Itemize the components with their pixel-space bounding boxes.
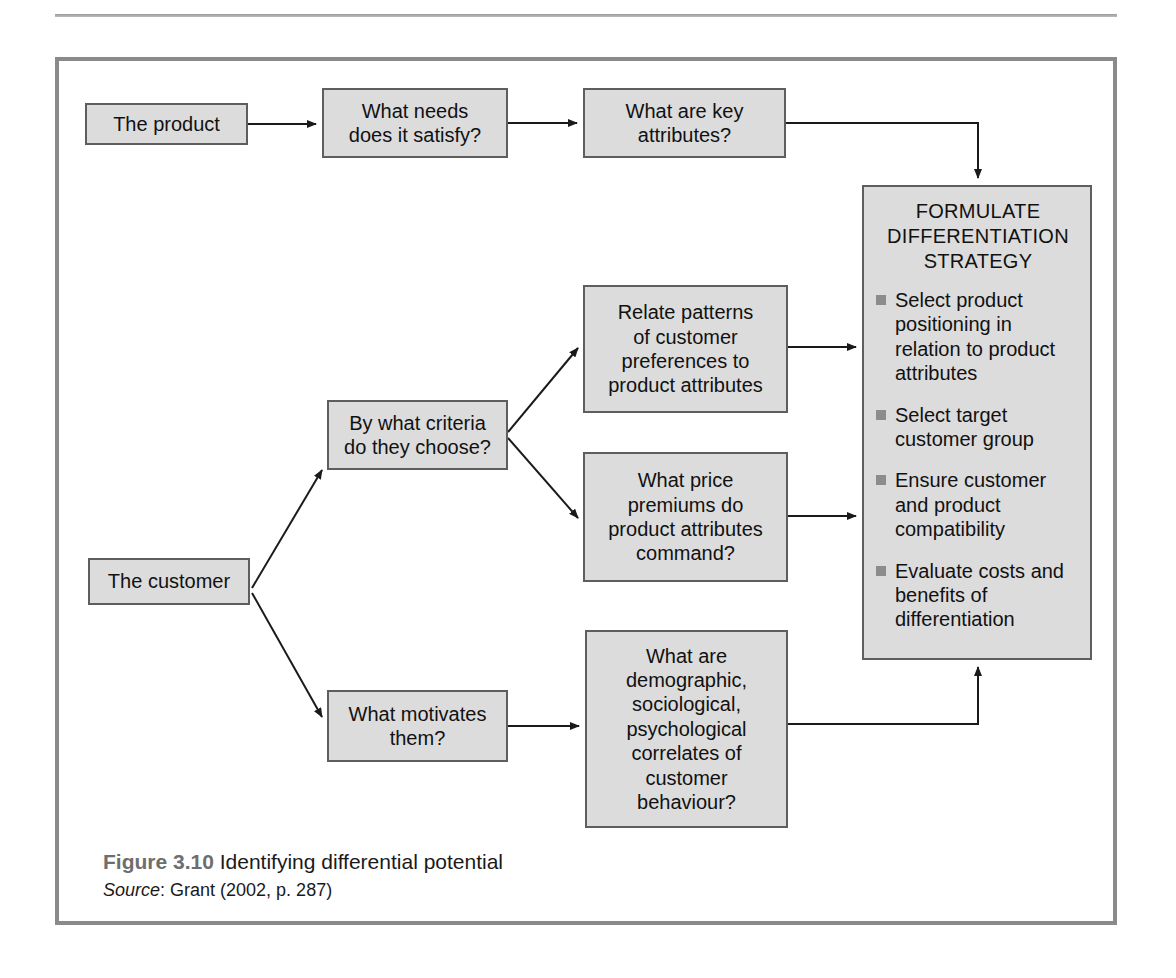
source-text: : Grant (2002, p. 287) bbox=[160, 880, 332, 900]
list-item: Evaluate costs and benefits of different… bbox=[876, 559, 1080, 632]
node-what-needs-satisfy[interactable]: What needs does it satisfy? bbox=[322, 88, 508, 158]
line-1: By what criteria bbox=[349, 412, 486, 434]
list-item: Select target customer group bbox=[876, 403, 1080, 452]
figure-title: Identifying differential potential bbox=[220, 850, 503, 873]
source-label: Source bbox=[103, 880, 160, 900]
edge-customer-to-motivates bbox=[252, 593, 322, 717]
node-what-needs-satisfy-label: What needs does it satisfy? bbox=[349, 99, 481, 148]
edge-criteria-to-relate bbox=[508, 348, 578, 432]
strategy-title: FORMULATE DIFFERENTIATION STRATEGY bbox=[876, 199, 1080, 274]
line-2: does it satisfy? bbox=[349, 124, 481, 146]
edge-attributes-to-strategy bbox=[786, 123, 978, 178]
line-3: sociological, bbox=[632, 693, 741, 715]
line-1: What needs bbox=[362, 100, 469, 122]
node-price-premiums[interactable]: What price premiums do product attribute… bbox=[583, 452, 788, 582]
bullet-text: Ensure customer and product compatibilit… bbox=[895, 468, 1080, 541]
line-1: What are key bbox=[626, 100, 744, 122]
line-4: psychological bbox=[626, 718, 746, 740]
list-item: Select product positioning in relation t… bbox=[876, 288, 1080, 386]
node-by-what-criteria[interactable]: By what criteria do they choose? bbox=[327, 400, 508, 470]
figure-page: The product What needs does it satisfy? … bbox=[0, 0, 1176, 978]
strategy-title-line-2: DIFFERENTIATION bbox=[876, 224, 1080, 249]
square-bullet-icon bbox=[876, 295, 886, 305]
node-demographic-correlates-label: What are demographic, sociological, psyc… bbox=[626, 644, 747, 815]
edge-customer-to-criteria bbox=[252, 470, 322, 588]
node-by-what-criteria-label: By what criteria do they choose? bbox=[344, 411, 491, 460]
node-the-product[interactable]: The product bbox=[85, 103, 248, 145]
list-item: Ensure customer and product compatibilit… bbox=[876, 468, 1080, 541]
node-the-customer[interactable]: The customer bbox=[88, 558, 250, 605]
node-relate-patterns[interactable]: Relate patterns of customer preferences … bbox=[583, 285, 788, 413]
line-2: do they choose? bbox=[344, 436, 491, 458]
strategy-title-line-3: STRATEGY bbox=[876, 249, 1080, 274]
strategy-title-line-1: FORMULATE bbox=[876, 199, 1080, 224]
caption-title-line: Figure 3.10 Identifying differential pot… bbox=[103, 848, 963, 875]
square-bullet-icon bbox=[876, 475, 886, 485]
edge-demographic-to-strategy bbox=[788, 667, 978, 724]
figure-caption: Figure 3.10 Identifying differential pot… bbox=[103, 848, 963, 903]
strategy-bullet-list: Select product positioning in relation t… bbox=[876, 288, 1080, 632]
node-the-customer-label: The customer bbox=[108, 569, 230, 593]
node-what-motivates-them-label: What motivates them? bbox=[349, 702, 487, 751]
node-the-product-label: The product bbox=[113, 112, 220, 136]
line-1: What are bbox=[646, 645, 727, 667]
line-3: preferences to bbox=[622, 350, 750, 372]
line-7: behaviour? bbox=[637, 791, 736, 813]
line-1: What motivates bbox=[349, 703, 487, 725]
node-demographic-correlates[interactable]: What are demographic, sociological, psyc… bbox=[585, 630, 788, 828]
line-1: Relate patterns bbox=[618, 301, 754, 323]
figure-number: Figure 3.10 bbox=[103, 850, 214, 873]
line-2: demographic, bbox=[626, 669, 747, 691]
node-key-attributes-label: What are key attributes? bbox=[626, 99, 744, 148]
edge-criteria-to-price bbox=[508, 438, 578, 518]
line-4: product attributes bbox=[608, 374, 763, 396]
node-price-premiums-label: What price premiums do product attribute… bbox=[608, 468, 763, 566]
line-5: correlates of bbox=[631, 742, 741, 764]
caption-source-line: Source: Grant (2002, p. 287) bbox=[103, 878, 963, 903]
line-2: attributes? bbox=[638, 124, 731, 146]
line-4: command? bbox=[636, 542, 735, 564]
square-bullet-icon bbox=[876, 410, 886, 420]
node-relate-patterns-label: Relate patterns of customer preferences … bbox=[608, 300, 763, 398]
line-3: product attributes bbox=[608, 518, 763, 540]
bullet-text: Evaluate costs and benefits of different… bbox=[895, 559, 1080, 632]
line-2: premiums do bbox=[628, 494, 744, 516]
node-formulate-differentiation-strategy[interactable]: FORMULATE DIFFERENTIATION STRATEGY Selec… bbox=[862, 185, 1092, 660]
square-bullet-icon bbox=[876, 566, 886, 576]
node-what-motivates-them[interactable]: What motivates them? bbox=[327, 690, 508, 762]
line-1: What price bbox=[638, 469, 734, 491]
line-2: of customer bbox=[633, 326, 737, 348]
line-6: customer bbox=[645, 767, 727, 789]
bullet-text: Select target customer group bbox=[895, 403, 1080, 452]
node-key-attributes[interactable]: What are key attributes? bbox=[583, 88, 786, 158]
bullet-text: Select product positioning in relation t… bbox=[895, 288, 1080, 386]
line-2: them? bbox=[390, 727, 446, 749]
